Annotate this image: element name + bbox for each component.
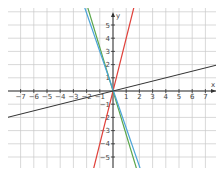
x-tick-label: −4 xyxy=(55,93,66,101)
y-tick-label: −3 xyxy=(100,127,110,135)
x-axis-label: x xyxy=(211,81,215,89)
y-tick-label: 3 xyxy=(106,48,110,56)
x-tick-label: 4 xyxy=(164,93,169,101)
y-axis-label: y xyxy=(116,12,120,20)
x-arrow-icon xyxy=(211,89,216,93)
coordinate-plane: −7−6−5−4−3−2−11234567−5−4−3−2−112345xy xyxy=(0,0,222,172)
y-tick-label: 5 xyxy=(106,22,110,30)
y-tick-label: −5 xyxy=(100,154,110,162)
x-tick-label: −7 xyxy=(15,93,25,101)
x-tick-label: 3 xyxy=(150,93,154,101)
x-tick-label: 1 xyxy=(124,93,128,101)
x-tick-label: −5 xyxy=(42,93,52,101)
x-tick-label: 5 xyxy=(177,93,181,101)
x-tick-label: −6 xyxy=(29,93,40,101)
line-graph: −7−6−5−4−3−2−11234567−5−4−3−2−112345xy xyxy=(0,0,222,172)
y-tick-label: 4 xyxy=(106,35,111,43)
x-tick-label: 2 xyxy=(137,93,141,101)
y-arrow-icon xyxy=(111,12,115,17)
y-tick-label: −4 xyxy=(100,140,111,148)
y-tick-label: −2 xyxy=(100,114,110,122)
x-tick-label: 6 xyxy=(190,93,195,101)
x-tick-label: 7 xyxy=(203,93,207,101)
